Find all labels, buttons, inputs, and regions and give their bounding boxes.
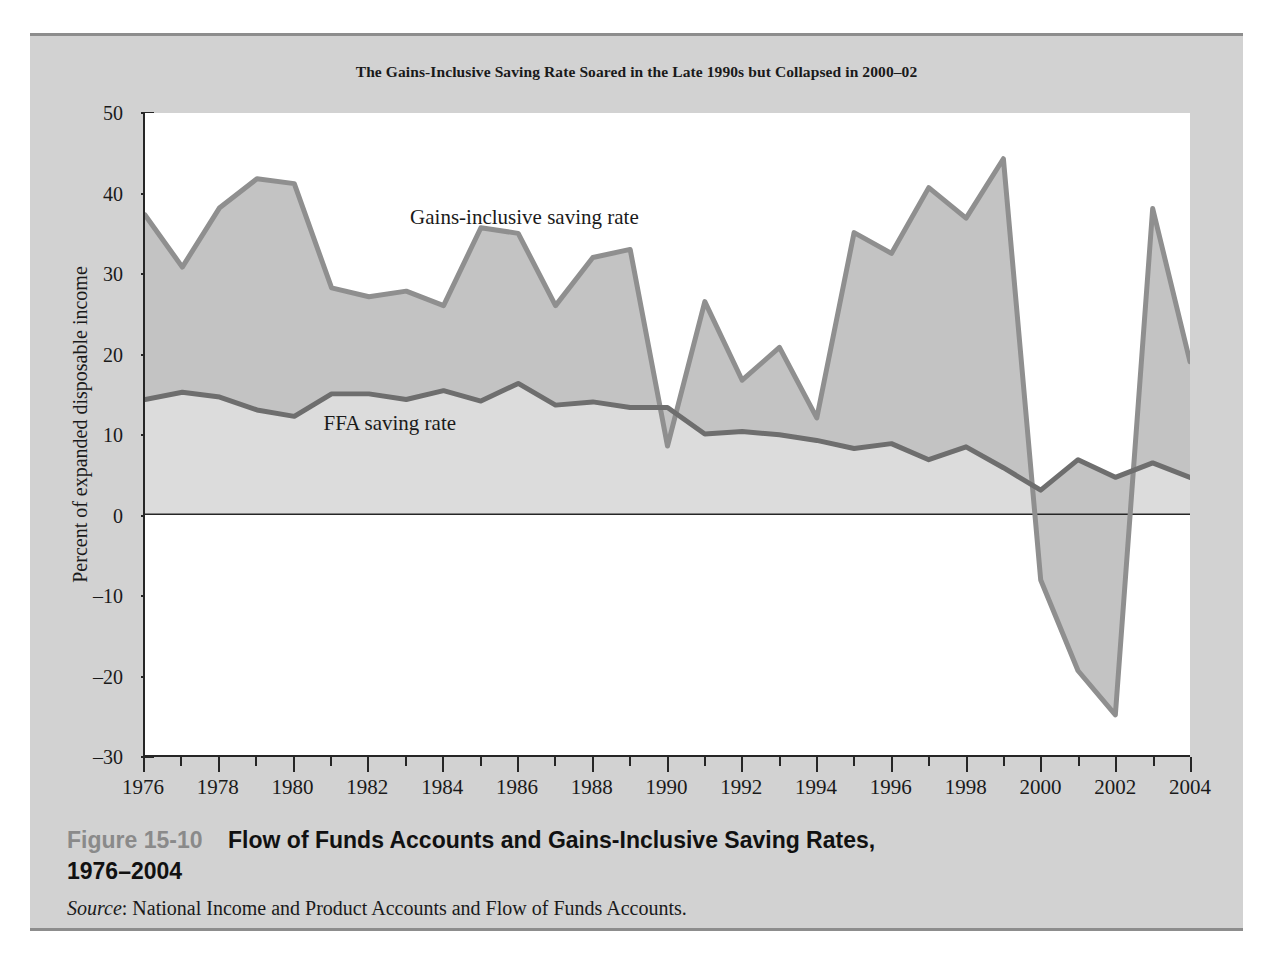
x-tick-label: 1984 <box>402 775 482 800</box>
source-text: : National Income and Product Accounts a… <box>122 897 687 919</box>
x-tick-major <box>143 757 145 772</box>
gains-series-label: Gains-inclusive saving rate <box>410 205 639 230</box>
x-tick-label: 2004 <box>1150 775 1230 800</box>
x-tick-label: 1976 <box>103 775 183 800</box>
x-tick-major <box>966 757 968 772</box>
y-tick-label: 10 <box>63 424 123 447</box>
x-tick-minor <box>180 757 182 766</box>
figure-title-line1: Flow of Funds Accounts and Gains-Inclusi… <box>228 827 875 853</box>
x-tick-label: 1992 <box>701 775 781 800</box>
x-tick-major <box>442 757 444 772</box>
x-tick-major <box>1115 757 1117 772</box>
x-tick-label: 1988 <box>552 775 632 800</box>
x-tick-minor <box>928 757 930 766</box>
x-tick-label: 1986 <box>477 775 557 800</box>
x-tick-major <box>592 757 594 772</box>
x-tick-major <box>1040 757 1042 772</box>
ffa-series-label: FFA saving rate <box>323 411 456 436</box>
figure-title-line2: 1976–2004 <box>67 856 1197 887</box>
figure-caption: Figure 15-10 Flow of Funds Accounts and … <box>67 826 1197 920</box>
x-tick-minor <box>1003 757 1005 766</box>
x-tick-minor <box>704 757 706 766</box>
x-tick-major <box>218 757 220 772</box>
x-tick-major <box>891 757 893 772</box>
x-tick-label: 1998 <box>926 775 1006 800</box>
x-tick-major <box>293 757 295 772</box>
x-tick-minor <box>1078 757 1080 766</box>
y-tick-label: 40 <box>63 182 123 205</box>
source-label: Source <box>67 897 122 919</box>
plot-area <box>143 113 1190 757</box>
x-axis: 1976197819801982198419861988199019921994… <box>143 757 1190 803</box>
x-tick-minor <box>255 757 257 766</box>
x-tick-minor <box>629 757 631 766</box>
y-tick-label: 50 <box>63 102 123 125</box>
x-tick-label: 1978 <box>178 775 258 800</box>
figure-container: The Gains-Inclusive Saving Rate Soared i… <box>30 33 1243 931</box>
x-tick-minor <box>330 757 332 766</box>
x-tick-major <box>1190 757 1192 772</box>
x-tick-minor <box>1153 757 1155 766</box>
x-tick-major <box>367 757 369 772</box>
x-tick-minor <box>405 757 407 766</box>
y-tick-label: –10 <box>63 585 123 608</box>
y-tick-label: 0 <box>63 504 123 527</box>
y-tick-label: 20 <box>63 343 123 366</box>
x-tick-minor <box>779 757 781 766</box>
chart-svg <box>145 113 1190 755</box>
caption-line-1: Figure 15-10 Flow of Funds Accounts and … <box>67 826 1197 856</box>
x-tick-label: 2000 <box>1000 775 1080 800</box>
x-tick-label: 1980 <box>253 775 333 800</box>
y-axis: Percent of expanded disposable income 50… <box>48 113 123 757</box>
x-tick-major <box>816 757 818 772</box>
y-tick-label: –20 <box>63 665 123 688</box>
x-tick-minor <box>853 757 855 766</box>
y-tick-label: –30 <box>63 746 123 769</box>
x-tick-label: 1982 <box>327 775 407 800</box>
source-line: Source: National Income and Product Acco… <box>67 897 1197 920</box>
x-tick-major <box>517 757 519 772</box>
x-tick-minor <box>554 757 556 766</box>
y-tick-label: 30 <box>63 263 123 286</box>
x-tick-major <box>667 757 669 772</box>
x-tick-label: 1996 <box>851 775 931 800</box>
x-tick-label: 1990 <box>627 775 707 800</box>
x-tick-label: 1994 <box>776 775 856 800</box>
x-tick-minor <box>480 757 482 766</box>
x-tick-major <box>741 757 743 772</box>
x-tick-label: 2002 <box>1075 775 1155 800</box>
figure-number: Figure 15-10 <box>67 827 203 853</box>
chart-title: The Gains-Inclusive Saving Rate Soared i… <box>30 63 1243 81</box>
